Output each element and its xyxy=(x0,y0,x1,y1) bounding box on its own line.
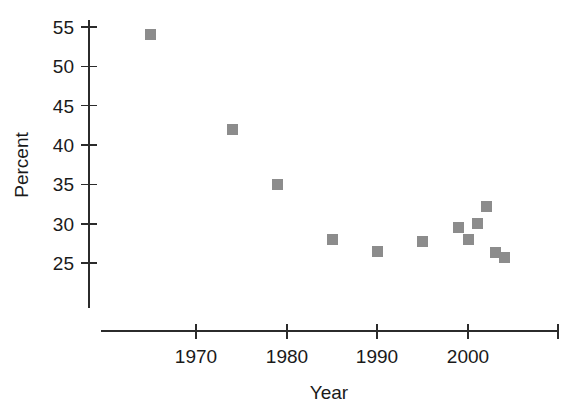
data-point xyxy=(499,252,510,263)
y-tick-label-55: 55 xyxy=(53,17,74,38)
data-point xyxy=(481,201,492,212)
y-axis-tick-labels: 55 50 45 40 35 30 25 xyxy=(53,17,74,274)
scatter-chart-figure: 55 50 45 40 35 30 25 Percent 1970 xyxy=(0,0,577,417)
data-point xyxy=(372,246,383,257)
data-point xyxy=(417,236,428,247)
x-tick-label-1990: 1990 xyxy=(356,346,398,367)
y-axis: 55 50 45 40 35 30 25 Percent xyxy=(11,17,97,308)
data-point-group xyxy=(145,29,510,263)
data-point xyxy=(227,124,238,135)
x-tick-label-1980: 1980 xyxy=(266,346,308,367)
x-tick-label-2000: 2000 xyxy=(447,346,489,367)
data-point xyxy=(145,29,156,40)
y-tick-label-50: 50 xyxy=(53,56,74,77)
y-tick-label-25: 25 xyxy=(53,253,74,274)
x-axis-tick-labels: 1970 1980 1990 2000 xyxy=(175,346,489,367)
data-point xyxy=(327,234,338,245)
y-tick-label-30: 30 xyxy=(53,214,74,235)
x-axis-title: Year xyxy=(310,382,349,403)
data-point xyxy=(463,234,474,245)
y-tick-label-45: 45 xyxy=(53,96,74,117)
y-tick-label-35: 35 xyxy=(53,174,74,195)
y-tick-label-40: 40 xyxy=(53,135,74,156)
x-tick-label-1970: 1970 xyxy=(175,346,217,367)
y-axis-title: Percent xyxy=(11,132,32,198)
x-axis: 1970 1980 1990 2000 Year xyxy=(101,324,559,403)
plot-canvas: 55 50 45 40 35 30 25 Percent 1970 xyxy=(0,0,577,417)
data-point xyxy=(472,218,483,229)
data-point xyxy=(453,222,464,233)
data-point xyxy=(272,179,283,190)
